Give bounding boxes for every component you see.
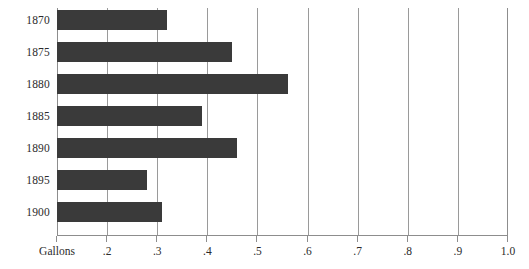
bar-1880[interactable] [57, 74, 288, 94]
x-axis-tick [206, 236, 207, 242]
x-axis: Gallons.2.3.4.5.6.7.8.91.0 [0, 236, 529, 269]
gridline [408, 8, 409, 235]
x-axis-tick-label: 1.0 [501, 245, 515, 257]
x-axis-tick [256, 236, 257, 242]
y-axis-label-1890: 1890 [0, 138, 50, 158]
bar-row[interactable] [57, 10, 167, 30]
x-axis-tick-label: .3 [153, 245, 162, 257]
x-axis-tick [407, 236, 408, 242]
x-axis-tick [307, 236, 308, 242]
bar-row[interactable] [57, 202, 162, 222]
x-axis-tick [357, 236, 358, 242]
bar-chart: 1870187518801885189018951900 Gallons.2.3… [0, 0, 529, 269]
bar-1875[interactable] [57, 42, 232, 62]
gridline [308, 8, 309, 235]
y-axis-label-1895: 1895 [0, 170, 50, 190]
bar-1900[interactable] [57, 202, 162, 222]
x-axis-tick-label: .4 [203, 245, 212, 257]
x-axis-tick-label: .9 [454, 245, 463, 257]
y-axis-label-1875: 1875 [0, 42, 50, 62]
x-axis-tick [507, 236, 508, 242]
bar-1895[interactable] [57, 170, 147, 190]
bar-row[interactable] [57, 106, 202, 126]
x-axis-tick [56, 236, 57, 242]
y-axis-label-1900: 1900 [0, 202, 50, 222]
gridline [358, 8, 359, 235]
y-axis-label-1885: 1885 [0, 106, 50, 126]
y-axis-label-1880: 1880 [0, 74, 50, 94]
bar-row[interactable] [57, 170, 147, 190]
x-axis-tick-label: .8 [403, 245, 412, 257]
x-axis-title: Gallons [39, 245, 75, 257]
x-axis-tick [106, 236, 107, 242]
x-axis-tick-label: .6 [303, 245, 312, 257]
x-axis-tick [156, 236, 157, 242]
x-axis-tick-label: .2 [103, 245, 112, 257]
bar-1870[interactable] [57, 10, 167, 30]
x-axis-tick-label: .5 [253, 245, 262, 257]
y-axis-label-1870: 1870 [0, 10, 50, 30]
x-axis-tick-label: .7 [353, 245, 362, 257]
gridline [257, 8, 258, 235]
bar-1885[interactable] [57, 106, 202, 126]
bar-row[interactable] [57, 138, 237, 158]
bar-row[interactable] [57, 42, 232, 62]
bar-row[interactable] [57, 74, 288, 94]
gridline [458, 8, 459, 235]
bar-1890[interactable] [57, 138, 237, 158]
x-axis-tick [457, 236, 458, 242]
